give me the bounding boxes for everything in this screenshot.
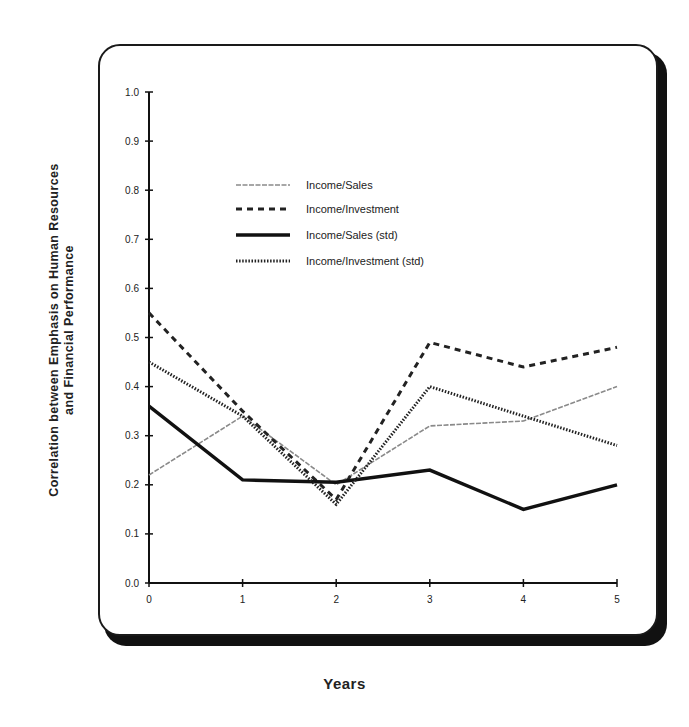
legend: Income/SalesIncome/InvestmentIncome/Sale…: [236, 179, 424, 267]
series-layer: [149, 313, 617, 510]
legend-label: Income/Investment: [306, 203, 399, 215]
x-tick-label: 1: [240, 594, 246, 605]
y-tick-label: 0.9: [125, 136, 139, 147]
y-tick-label: 0.5: [125, 332, 139, 343]
x-axis-title: Years: [0, 675, 689, 692]
x-tick-label: 0: [146, 594, 152, 605]
legend-item: Income/Investment: [236, 203, 399, 215]
x-tick-label: 5: [614, 594, 620, 605]
legend-label: Income/Sales: [306, 179, 373, 191]
y-tick-label: 0.2: [125, 479, 139, 490]
x-tick-label: 4: [521, 594, 527, 605]
y-tick-label: 0.8: [125, 185, 139, 196]
y-tick-label: 0.6: [125, 283, 139, 294]
axes: 0.00.10.20.30.40.50.60.70.80.91.0012345: [125, 87, 620, 606]
legend-item: Income/Sales (std): [236, 229, 398, 241]
legend-item: Income/Investment (std): [236, 255, 424, 267]
y-axis-title-line2: and Financial Performance: [62, 70, 77, 590]
y-tick-label: 0.0: [125, 578, 139, 589]
y-axis-title-line1: Correlation between Emphasis on Human Re…: [47, 70, 62, 590]
x-tick-label: 2: [333, 594, 339, 605]
line-chart: 0.00.10.20.30.40.50.60.70.80.91.0012345 …: [0, 0, 689, 727]
legend-label: Income/Sales (std): [306, 229, 398, 241]
series-line-income-investment: [149, 313, 617, 500]
x-tick-label: 3: [427, 594, 433, 605]
y-tick-label: 0.3: [125, 430, 139, 441]
series-line-income-investment-std: [149, 362, 617, 504]
legend-item: Income/Sales: [236, 179, 373, 191]
y-tick-label: 0.1: [125, 528, 139, 539]
y-tick-label: 1.0: [125, 87, 139, 98]
y-tick-label: 0.4: [125, 381, 139, 392]
legend-label: Income/Investment (std): [306, 255, 424, 267]
y-tick-label: 0.7: [125, 234, 139, 245]
y-axis-title: Correlation between Emphasis on Human Re…: [47, 70, 77, 590]
series-line-income-sales: [149, 387, 617, 485]
